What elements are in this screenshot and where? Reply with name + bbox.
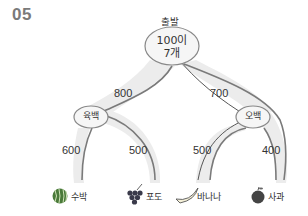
right-node-text: 오백: [238, 111, 268, 122]
grapes-icon: [127, 184, 142, 205]
fruit-label-banana: 바나나: [197, 190, 221, 203]
apple-icon: [252, 187, 265, 204]
edge-label-600: 600: [62, 144, 80, 156]
left-node-text: 육백: [76, 111, 106, 122]
fruit-label-watermelon: 수박: [71, 190, 87, 203]
banana-icon: [176, 188, 198, 203]
root-line-2: 7개: [150, 47, 194, 60]
edge-label-500-banana: 500: [193, 144, 211, 156]
watermelon-icon: [53, 189, 68, 204]
tree-diagram: [0, 0, 308, 216]
fruit-label-apple: 사과: [268, 190, 284, 203]
root-node-text: 100이 7개: [150, 34, 194, 60]
start-label: 출발: [161, 14, 179, 28]
edge-label-700: 700: [210, 87, 228, 99]
edge-label-800: 800: [114, 87, 132, 99]
edge-label-400: 400: [262, 144, 280, 156]
fruit-label-grapes: 포도: [146, 190, 162, 203]
root-line-1: 100이: [150, 34, 194, 47]
edge-label-500-grapes: 500: [129, 144, 147, 156]
